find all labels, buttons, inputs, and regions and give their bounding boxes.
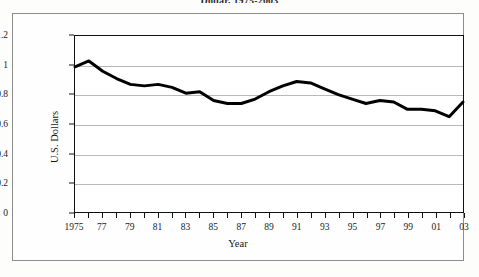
x-tick-mark	[436, 213, 437, 218]
x-tick-mark	[213, 213, 214, 218]
x-tick-mark	[255, 213, 256, 218]
y-tick-label: 0.8	[0, 89, 8, 99]
x-tick-mark	[450, 213, 451, 218]
x-tick-mark	[380, 213, 381, 218]
x-tick-label: 81	[153, 222, 163, 232]
x-tick-label: 99	[404, 222, 414, 232]
x-tick-mark	[158, 213, 159, 218]
x-tick-mark	[464, 213, 465, 218]
x-tick-label: 85	[209, 222, 219, 232]
y-tick-label: 1	[0, 60, 8, 70]
data-series-line	[75, 36, 463, 212]
x-tick-mark	[422, 213, 423, 218]
x-tick-label: 1975	[65, 222, 84, 232]
x-tick-mark	[130, 213, 131, 218]
figure-caption: Dollar, 1975-2003	[0, 0, 479, 3]
y-tick-label: 0.6	[0, 119, 8, 129]
x-tick-mark	[283, 213, 284, 218]
x-tick-mark	[185, 213, 186, 218]
x-tick-mark	[353, 213, 354, 218]
x-tick-mark	[325, 213, 326, 218]
x-tick-mark	[269, 213, 270, 218]
x-axis-title: Year	[12, 238, 464, 249]
x-tick-mark	[199, 213, 200, 218]
x-tick-label: 87	[236, 222, 246, 232]
y-tick-label: 1.2	[0, 30, 8, 40]
x-tick-mark	[172, 213, 173, 218]
y-axis-title: U.S. Dollars	[49, 111, 60, 163]
x-tick-mark	[74, 213, 75, 218]
x-tick-label: 83	[181, 222, 191, 232]
x-tick-label: 79	[125, 222, 135, 232]
x-tick-mark	[116, 213, 117, 218]
x-tick-label: 91	[292, 222, 302, 232]
x-tick-label: 95	[348, 222, 358, 232]
x-tick-label: 89	[264, 222, 274, 232]
x-tick-mark	[394, 213, 395, 218]
y-tick-label: 0.4	[0, 149, 8, 159]
x-tick-label: 01	[431, 222, 441, 232]
x-tick-label: 03	[459, 222, 469, 232]
x-tick-mark	[339, 213, 340, 218]
x-tick-label: 97	[376, 222, 386, 232]
x-tick-mark	[311, 213, 312, 218]
x-tick-mark	[144, 213, 145, 218]
line-chart: U.S. Dollars 00.20.40.60.811.2 197577798…	[12, 13, 464, 261]
x-tick-mark	[88, 213, 89, 218]
x-tick-mark	[408, 213, 409, 218]
x-tick-mark	[102, 213, 103, 218]
y-tick-label: 0.2	[0, 178, 8, 188]
x-tick-mark	[297, 213, 298, 218]
x-tick-mark	[367, 213, 368, 218]
x-tick-mark	[241, 213, 242, 218]
series-polyline	[75, 61, 463, 117]
scanned-page: Dollar, 1975-2003 U.S. Dollars 00.20.40.…	[0, 0, 479, 277]
x-tick-mark	[227, 213, 228, 218]
x-tick-label: 93	[320, 222, 330, 232]
y-tick-label: 0	[0, 208, 8, 218]
plot-area	[74, 35, 464, 213]
x-tick-label: 77	[97, 222, 107, 232]
